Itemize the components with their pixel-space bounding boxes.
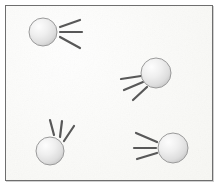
motion-line — [60, 121, 62, 137]
motion-line — [136, 133, 157, 142]
object-group-sphere-middle-right — [121, 58, 171, 100]
sphere-middle-right — [141, 58, 171, 88]
motion-line — [50, 120, 54, 135]
object-group-sphere-top-left — [29, 18, 82, 48]
object-group-sphere-bottom-right — [134, 133, 188, 163]
sphere-top-left — [29, 18, 57, 46]
motion-lines-sphere-top-left — [60, 20, 82, 48]
sphere-bottom-right — [158, 133, 188, 163]
object-group-sphere-bottom-left — [36, 120, 74, 165]
motion-lines-sphere-bottom-right — [134, 133, 157, 159]
motion-line — [124, 82, 143, 90]
motion-line — [64, 126, 74, 141]
sphere-bottom-left — [36, 137, 64, 165]
motion-line — [60, 20, 80, 27]
motion-line — [133, 87, 147, 100]
motion-line — [121, 76, 141, 79]
motion-line — [137, 153, 157, 159]
figure-canvas: Four spheres with motion lines — [0, 0, 223, 192]
motion-line — [60, 37, 80, 48]
spheres-scene — [0, 0, 223, 192]
